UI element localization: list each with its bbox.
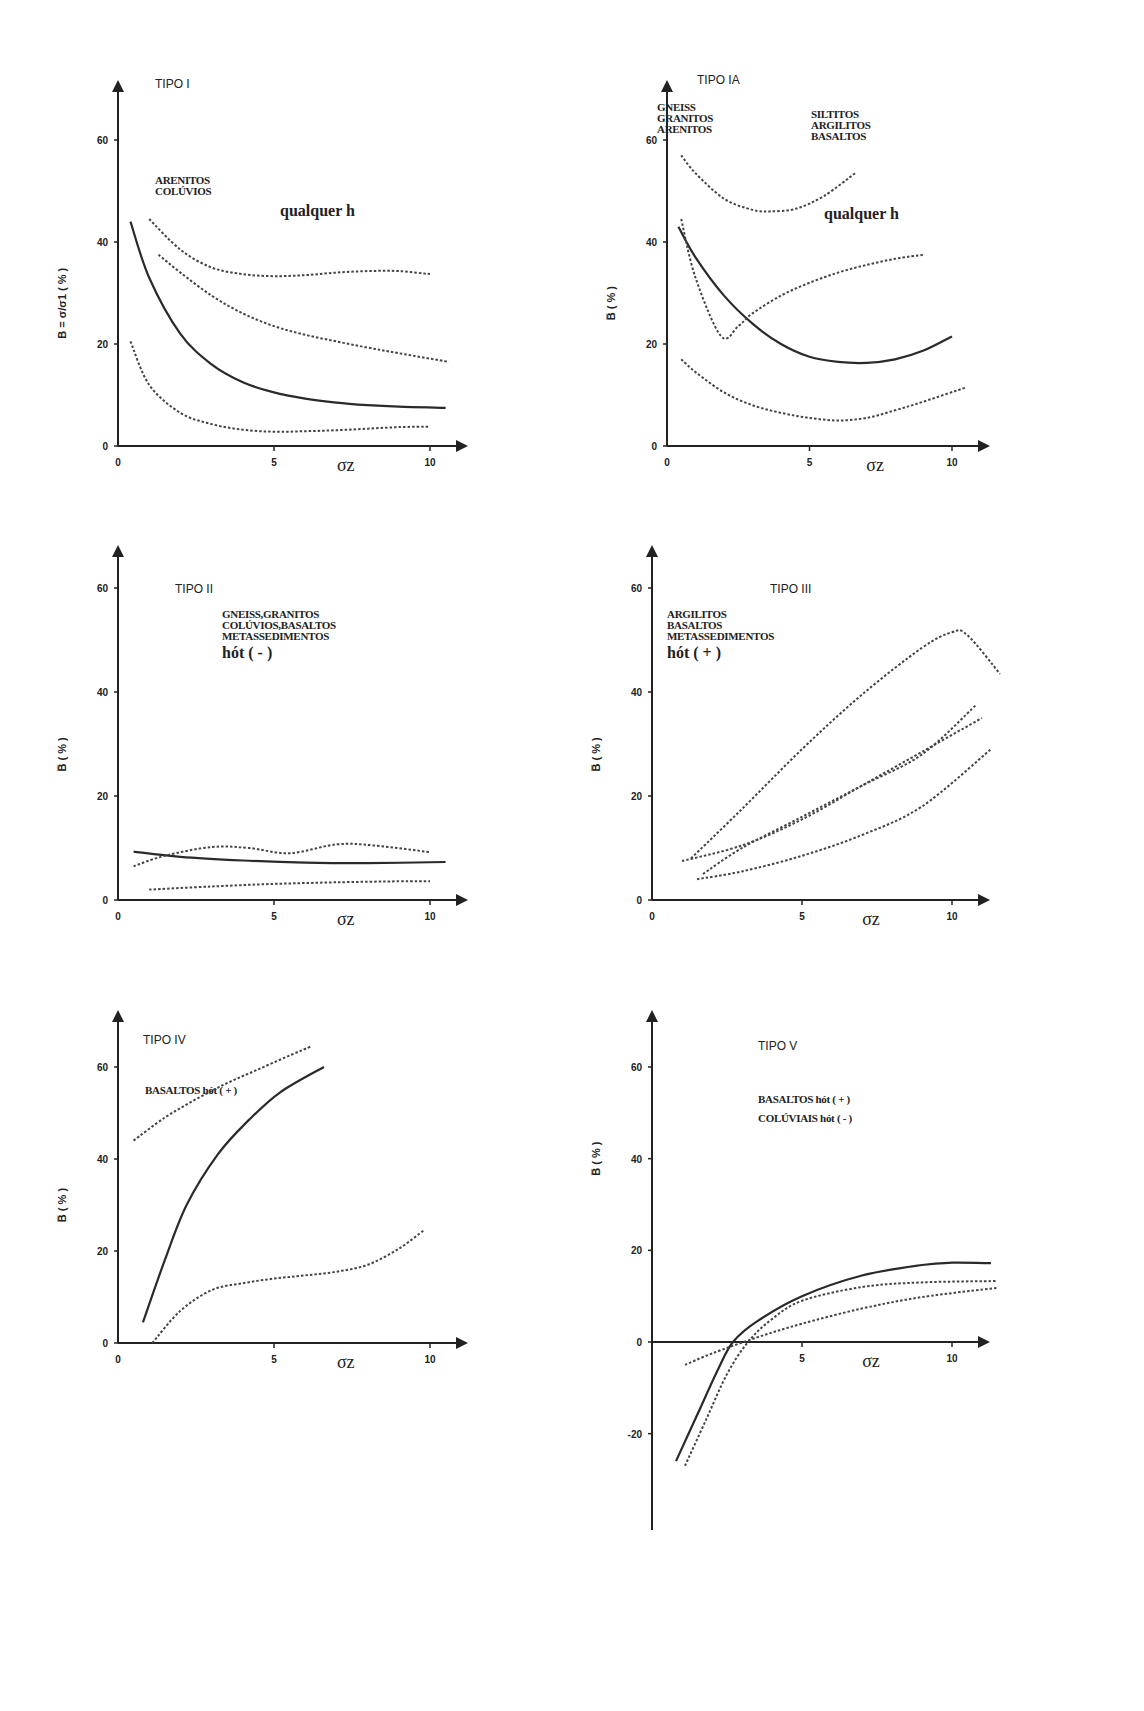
y-axis-arrow-icon [112,1010,124,1022]
chart-title: TIPO IA [697,73,740,87]
rock-label: ARENITOS [657,123,712,135]
y-tick-label: 0 [102,895,108,906]
x-axis-label: σz [337,455,355,475]
y-tick-label: 60 [97,583,109,594]
x-tick-label: 0 [664,457,670,468]
y-axis-arrow-icon [112,80,124,92]
y-axis-arrow-icon [646,1010,658,1022]
chart-svg: 02040600510σzB̅ ( % )TIPO IIGNEISS,GRANI… [0,520,572,970]
x-tick-label: 10 [424,911,436,922]
x-axis-label: σz [866,455,884,475]
y-tick-label: 40 [97,687,109,698]
curve-solid [678,227,952,363]
y-tick-label: 0 [636,895,642,906]
chart-title: TIPO IV [143,1033,186,1047]
y-tick-label: 0 [651,441,657,452]
y-axis-label: B̅ ( % ) [56,1188,68,1223]
x-axis-arrow-icon [456,1337,468,1349]
y-tick-label: 0 [102,441,108,452]
y-tick-label: -20 [628,1429,643,1440]
curve-dotted [682,718,982,861]
x-axis-arrow-icon [978,440,990,452]
curve-dotted [159,255,449,362]
annotation-note: hót ( + ) [667,644,721,662]
x-axis-label: σz [337,909,355,929]
x-tick-label: 0 [115,1354,121,1365]
chart-svg: 02040600510σzB = σ/σ1 ( % )TIPO IARENITO… [0,0,572,520]
curve-dotted [149,881,430,889]
curve-dotted [703,705,976,874]
x-tick-label: 5 [271,1354,277,1365]
chart-title: TIPO V [758,1039,797,1053]
y-tick-label: 40 [646,237,658,248]
curve-dotted [685,1281,997,1466]
curve-dotted [681,219,923,339]
y-tick-label: 60 [631,583,643,594]
rock-label: METASSEDIMENTOS [667,630,774,642]
y-tick-label: 20 [97,339,109,350]
y-tick-label: 20 [631,791,643,802]
x-tick-label: 10 [424,1354,436,1365]
x-tick-label: 10 [946,457,958,468]
x-axis-arrow-icon [456,440,468,452]
y-axis-arrow-icon [661,80,673,92]
y-tick-label: 20 [97,791,109,802]
chart-tipo-i: 02040600510σzB = σ/σ1 ( % )TIPO IARENITO… [0,0,572,520]
y-axis-label: B̅ ( % ) [56,737,68,772]
curve-dotted [697,749,991,879]
curve-dotted [681,155,855,211]
curve-dotted [149,219,430,276]
curve-dotted [681,359,966,420]
curve-solid [143,1067,324,1322]
x-tick-label: 5 [807,457,813,468]
chart-tipo-iii: 02040600510σzB̅ ( % )TIPO IIIARGILITOSBA… [572,520,1144,970]
x-axis-arrow-icon [978,894,990,906]
rock-label: BASALTOS [811,130,866,142]
x-axis-label: σz [862,1351,880,1371]
curve-solid [130,222,445,408]
y-axis-label: B̅ ( % ) [590,1141,602,1176]
y-tick-label: 20 [631,1245,643,1256]
chart-tipo-ia: 02040600510σzB̅ ( % )TIPO IAGNEISSGRANIT… [572,0,1144,520]
y-tick-label: 40 [631,687,643,698]
x-tick-label: 5 [799,1353,805,1364]
rock-label: COLÚVIOS [155,185,211,197]
x-tick-label: 0 [115,911,121,922]
x-tick-label: 10 [946,1353,958,1364]
x-axis-label: σz [337,1352,355,1372]
y-axis-label: B̅ ( % ) [590,737,602,772]
y-tick-label: 60 [97,1062,109,1073]
y-tick-label: 20 [97,1246,109,1257]
y-axis-arrow-icon [646,545,658,557]
y-tick-label: 60 [646,135,658,146]
chart-svg: 02040600510σzB̅ ( % )TIPO IAGNEISSGRANIT… [572,0,1144,520]
x-axis-arrow-icon [978,1336,990,1348]
chart-svg: 02040600510σzB̅ ( % )TIPO IIIARGILITOSBA… [572,520,1144,970]
x-axis-arrow-icon [456,894,468,906]
rock-label: BASALTOS hót ( + ) [758,1093,851,1106]
y-tick-label: 60 [97,135,109,146]
x-tick-label: 0 [649,911,655,922]
y-tick-label: 20 [646,339,658,350]
chart-title: TIPO III [770,582,811,596]
x-tick-label: 5 [799,911,805,922]
y-axis-label: B̅ ( % ) [605,286,617,321]
chart-tipo-v: -200204060510σzB̅ ( % )TIPO VBASALTOS hó… [572,970,1144,1711]
curve-dotted [152,1230,423,1343]
annotation-note: qualquer h [824,205,899,223]
y-axis-label: B = σ/σ1 ( % ) [56,267,68,338]
y-tick-label: 40 [631,1154,643,1165]
x-tick-label: 5 [271,457,277,468]
y-tick-label: 40 [97,237,109,248]
x-tick-label: 5 [271,911,277,922]
rock-label: COLÚVIAIS hót ( - ) [758,1112,853,1125]
annotation-note: hót ( - ) [222,644,272,662]
x-axis-label: σz [862,909,880,929]
rock-label: BASALTOS hót ( + ) [145,1084,238,1097]
chart-svg: -200204060510σzB̅ ( % )TIPO VBASALTOS hó… [572,970,1144,1711]
y-tick-label: 0 [636,1337,642,1348]
chart-tipo-ii: 02040600510σzB̅ ( % )TIPO IIGNEISS,GRANI… [0,520,572,970]
y-tick-label: 0 [102,1338,108,1349]
x-tick-label: 0 [115,457,121,468]
chart-tipo-iv: 02040600510σzB̅ ( % )TIPO IVBASALTOS hót… [0,970,572,1711]
